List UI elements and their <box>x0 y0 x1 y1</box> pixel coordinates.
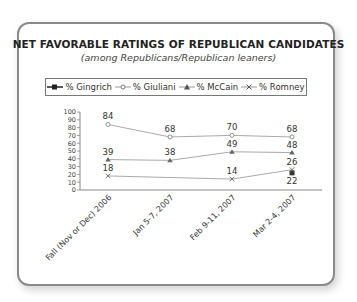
diamond-marker-icon <box>106 122 110 126</box>
y-tick-label: 50 <box>68 147 76 155</box>
y-tick-label: 90 <box>68 116 76 124</box>
data-label: 14 <box>227 166 238 176</box>
y-tick-label: 100 <box>64 108 76 116</box>
y-tick-label: 0 <box>72 186 76 194</box>
data-label: 18 <box>103 163 114 173</box>
diamond-marker-icon <box>168 135 172 139</box>
diamond-marker-icon <box>230 133 234 137</box>
data-label: 68 <box>165 124 176 134</box>
data-label: 38 <box>165 147 176 157</box>
data-label: 26 <box>287 157 298 167</box>
y-tick-label: 40 <box>68 155 76 163</box>
series-line <box>108 170 292 179</box>
series-line <box>108 124 292 136</box>
y-tick-label: 80 <box>68 124 76 132</box>
x-tick-label: Fall (Nov or Dec) 2006 <box>44 193 113 262</box>
data-label: 39 <box>103 147 114 157</box>
x-tick-label: Jan 5-7, 2007 <box>131 193 176 238</box>
series-line <box>108 152 292 161</box>
data-label: 48 <box>287 140 298 150</box>
data-label: 84 <box>103 111 114 121</box>
y-tick-label: 30 <box>68 163 76 171</box>
data-label: 22 <box>287 176 298 186</box>
x-tick-label: Mar 2-4, 2007 <box>251 193 297 239</box>
diamond-marker-icon <box>290 135 294 139</box>
y-tick-label: 60 <box>68 140 76 148</box>
data-label: 68 <box>287 124 298 134</box>
y-tick-label: 70 <box>68 132 76 140</box>
x-tick-label: Feb 9-11, 2007 <box>188 193 237 242</box>
line-chart-plot: 0102030405060708090100Fall (Nov or Dec) … <box>0 0 357 302</box>
data-label: 70 <box>227 122 238 132</box>
data-label: 49 <box>227 139 238 149</box>
y-tick-label: 10 <box>68 179 76 187</box>
y-tick-label: 20 <box>68 171 76 179</box>
